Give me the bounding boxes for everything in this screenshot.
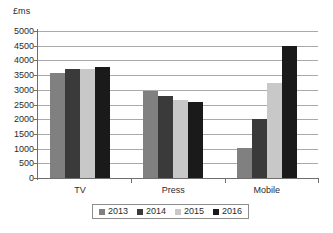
y-axis-tick-labels: 0500100015002000250030003500400045005000 xyxy=(0,0,34,233)
bar-tv-2013 xyxy=(50,73,65,178)
bar-mobile-2014 xyxy=(252,119,267,178)
y-axis-tick-label: 5000 xyxy=(14,27,34,36)
y-axis-tick-mark xyxy=(34,46,37,47)
legend-item-2016: 2016 xyxy=(213,207,242,216)
legend-swatch-icon xyxy=(137,209,143,215)
legend-label: 2013 xyxy=(108,207,128,216)
y-axis-tick-label: 1500 xyxy=(14,130,34,139)
bar-press-2014 xyxy=(158,96,173,178)
bar-tv-2016 xyxy=(95,67,110,178)
gridline xyxy=(38,60,318,61)
bar-press-2016 xyxy=(188,102,203,178)
x-axis-category-label-tv: TV xyxy=(50,185,110,195)
y-axis-tick-label: 4000 xyxy=(14,56,34,65)
y-axis-tick-mark xyxy=(34,119,37,120)
y-axis-tick-label: 4500 xyxy=(14,42,34,51)
y-axis-tick-label: 1000 xyxy=(14,145,34,154)
legend-item-2013: 2013 xyxy=(99,207,128,216)
legend-label: 2014 xyxy=(146,207,166,216)
bar-tv-2014 xyxy=(65,69,80,178)
x-axis-category-label-mobile: Mobile xyxy=(237,185,297,195)
legend-swatch-icon xyxy=(213,209,219,215)
legend-swatch-icon xyxy=(175,209,181,215)
y-axis-tick-label: 3500 xyxy=(14,71,34,80)
bar-tv-2015 xyxy=(80,69,95,178)
y-axis-tick-label: 2500 xyxy=(14,101,34,110)
y-axis-tick-mark xyxy=(34,60,37,61)
x-axis-end-tick xyxy=(318,178,319,183)
y-axis-tick-mark xyxy=(34,31,37,32)
bar-mobile-2015 xyxy=(267,83,282,178)
y-axis-tick-label: 2000 xyxy=(14,115,34,124)
y-axis-tick-mark xyxy=(34,149,37,150)
x-axis-category-separator xyxy=(225,178,226,183)
legend-swatch-icon xyxy=(99,209,105,215)
axis-baseline xyxy=(38,178,318,179)
y-axis-tick-mark xyxy=(34,134,37,135)
bar-press-2013 xyxy=(143,91,158,178)
legend-item-2015: 2015 xyxy=(175,207,204,216)
y-axis-tick-mark xyxy=(34,178,37,179)
bar-press-2015 xyxy=(173,100,188,178)
legend-item-2014: 2014 xyxy=(137,207,166,216)
bar-mobile-2013 xyxy=(237,148,252,178)
gridline xyxy=(38,46,318,47)
gridline xyxy=(38,31,318,32)
legend-label: 2016 xyxy=(222,207,242,216)
x-axis-category-separator xyxy=(131,178,132,183)
legend-label: 2015 xyxy=(184,207,204,216)
chart-legend: 2013201420152016 xyxy=(92,204,249,219)
y-axis-tick-mark xyxy=(34,75,37,76)
bar-chart-figure: £ms 050010001500200025003000350040004500… xyxy=(0,0,333,233)
y-axis-tick-label: 3000 xyxy=(14,86,34,95)
y-axis-tick-mark xyxy=(34,90,37,91)
y-axis-tick-mark xyxy=(34,105,37,106)
plot-area xyxy=(38,31,318,178)
y-axis-tick-mark xyxy=(34,163,37,164)
y-axis-tick-label: 500 xyxy=(19,159,34,168)
x-axis-category-label-press: Press xyxy=(143,185,203,195)
figure-caption xyxy=(8,225,333,233)
bar-mobile-2016 xyxy=(282,46,297,178)
